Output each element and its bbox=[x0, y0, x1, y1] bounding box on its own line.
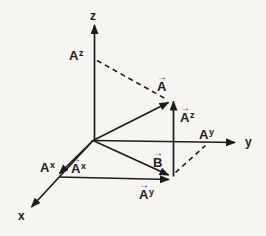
x-axis-label: x bbox=[18, 210, 25, 222]
vector-az-component-label: → Az bbox=[180, 105, 194, 124]
x-intercept-label: Ax bbox=[40, 161, 55, 174]
vector-b-label: → B bbox=[153, 150, 163, 169]
vector-components-diagram: z y x Az Ay Ax → A → B → Az → Ay → Ax bbox=[0, 0, 266, 236]
vector-ay-component-label: → Ay bbox=[139, 182, 154, 201]
y-axis-label: y bbox=[245, 136, 252, 148]
vector-ax-component-label: → Ax bbox=[71, 156, 86, 175]
vector-a-line bbox=[93, 103, 169, 141]
component-ay-line bbox=[59, 177, 169, 180]
y-intercept-label: Ay bbox=[199, 128, 214, 141]
z-axis-label: z bbox=[90, 10, 96, 22]
vector-a-label: → A bbox=[157, 74, 167, 93]
dashed-y-projection-line bbox=[176, 146, 206, 173]
dashed-z-projection-line bbox=[97, 61, 166, 100]
z-intercept-label: Az bbox=[69, 49, 83, 62]
diagram-canvas bbox=[0, 0, 266, 236]
